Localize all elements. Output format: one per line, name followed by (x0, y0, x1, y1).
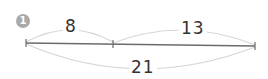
segment-diagram: 1 8 13 21 (0, 0, 268, 79)
left-segment-label: 8 (63, 18, 79, 35)
right-segment-label: 13 (179, 20, 207, 37)
main-line (26, 43, 255, 46)
step-number-badge: 1 (16, 14, 30, 28)
total-length-label: 21 (129, 59, 157, 76)
